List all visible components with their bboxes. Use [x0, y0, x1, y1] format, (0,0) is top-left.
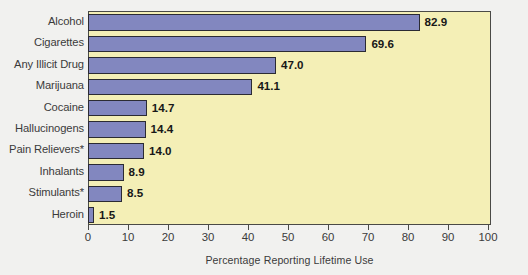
x-tick-label: 70	[362, 231, 375, 243]
category-label: Cocaine	[0, 97, 84, 118]
category-label: Marijuana	[0, 75, 84, 96]
bar	[88, 79, 252, 96]
x-tick-mark	[408, 225, 409, 230]
x-tick-mark	[88, 225, 89, 230]
x-tick-label: 10	[122, 231, 135, 243]
bar	[88, 57, 276, 74]
category-axis: AlcoholCigarettesAny Illicit DrugMarijua…	[0, 11, 84, 225]
bar	[88, 143, 144, 160]
bar-value-label: 14.0	[145, 143, 172, 160]
bar-row: 69.6	[89, 33, 490, 54]
x-tick-label: 30	[202, 231, 215, 243]
x-tick-mark	[488, 225, 489, 230]
x-tick-mark	[208, 225, 209, 230]
x-tick-mark	[328, 225, 329, 230]
bar	[88, 14, 420, 31]
bar-row: 47.0	[89, 55, 490, 76]
category-label: Cigarettes	[0, 32, 84, 53]
x-tick-label: 80	[402, 231, 415, 243]
x-axis: 0102030405060708090100	[88, 225, 491, 255]
bar	[88, 100, 147, 117]
x-tick-label: 50	[282, 231, 295, 243]
plot-area: 82.969.647.041.114.714.414.08.98.51.5	[88, 11, 491, 225]
category-label: Hallucinogens	[0, 118, 84, 139]
bar-row: 14.0	[89, 140, 490, 161]
bar-value-label: 8.5	[123, 185, 143, 202]
category-label: Heroin	[0, 204, 84, 225]
x-tick-mark	[128, 225, 129, 230]
x-tick-label: 0	[85, 231, 91, 243]
x-tick-mark	[288, 225, 289, 230]
x-tick-mark	[168, 225, 169, 230]
bar-row: 1.5	[89, 205, 490, 226]
x-axis-title: Percentage Reporting Lifetime Use	[88, 254, 491, 266]
bar-chart-figure: AlcoholCigarettesAny Illicit DrugMarijua…	[0, 0, 528, 275]
x-tick-label: 100	[478, 231, 497, 243]
bar	[88, 207, 94, 224]
x-tick-label: 40	[242, 231, 255, 243]
bar-row: 8.5	[89, 183, 490, 204]
bar	[88, 186, 122, 203]
category-label: Alcohol	[0, 11, 84, 32]
bar	[88, 36, 366, 53]
x-tick-label: 90	[442, 231, 455, 243]
x-tick-label: 20	[162, 231, 175, 243]
bar-value-label: 8.9	[125, 164, 145, 181]
bar-value-label: 47.0	[277, 57, 304, 74]
x-tick-mark	[368, 225, 369, 230]
bar-row: 8.9	[89, 162, 490, 183]
category-label: Stimulants*	[0, 182, 84, 203]
category-label: Any Illicit Drug	[0, 54, 84, 75]
bar-value-label: 82.9	[421, 14, 448, 31]
category-label: Inhalants	[0, 161, 84, 182]
bar-value-label: 14.7	[148, 100, 175, 117]
bar-value-label: 14.4	[147, 121, 174, 138]
bar	[88, 121, 146, 138]
category-label: Pain Relievers*	[0, 139, 84, 160]
bar-value-label: 69.6	[367, 36, 394, 53]
x-tick-mark	[448, 225, 449, 230]
bar-value-label: 1.5	[95, 207, 115, 224]
bar-value-label: 41.1	[253, 78, 280, 95]
bar-row: 14.4	[89, 119, 490, 140]
x-tick-mark	[248, 225, 249, 230]
bar-row: 41.1	[89, 76, 490, 97]
x-tick-label: 60	[322, 231, 335, 243]
bar	[88, 164, 124, 181]
bar-row: 82.9	[89, 12, 490, 33]
bar-row: 14.7	[89, 98, 490, 119]
